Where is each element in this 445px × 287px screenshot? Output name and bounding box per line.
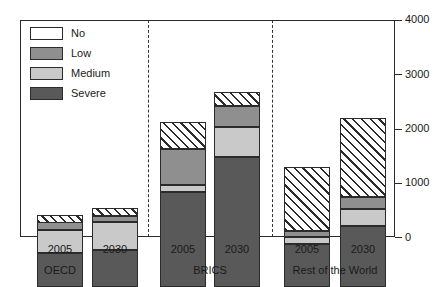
bar-row-2030[interactable] [340,118,386,287]
bar-segment-severe[interactable] [340,226,386,287]
bar-segment-no[interactable] [92,208,138,216]
legend-label-low: Low [71,47,91,60]
y-axis-label-0: 0 [405,232,411,243]
bar-segment-low[interactable] [340,197,386,210]
bar-segment-low[interactable] [92,216,138,222]
y-axis-label-4000: 4000 [405,14,429,25]
y-tick-4000 [395,20,402,21]
legend-swatch-low-icon [30,47,63,60]
legend-label-medium: Medium [71,67,110,80]
y-tick-0 [395,237,402,238]
y-tick-3000 [395,74,402,75]
bar-segment-no[interactable] [340,118,386,197]
bar-brics-2030[interactable] [214,92,260,287]
group-label-brics: BRICS [193,264,227,276]
legend-swatch-no-icon [30,27,63,40]
bar-segment-no[interactable] [284,167,330,231]
bar-segment-medium[interactable] [340,209,386,226]
group-separator-oecd-brics [148,20,149,237]
bar-segment-medium[interactable] [160,185,206,192]
bar-segment-no[interactable] [37,215,83,223]
bar-segment-no[interactable] [214,92,260,106]
group-separator-brics-row [272,20,273,237]
y-tick-1000 [395,183,402,184]
y-axis-label-2000: 2000 [405,123,429,134]
bar-segment-low[interactable] [284,231,330,236]
group-label-oecd: OECD [44,264,76,276]
legend-label-no: No [71,27,85,40]
bar-segment-low[interactable] [37,222,83,229]
bar-segment-severe[interactable] [92,250,138,287]
legend-swatch-medium-icon [30,67,63,80]
legend-swatch-severe-icon [30,87,63,100]
x-tick-label-row-2030: 2030 [333,243,393,255]
x-tick-label-oecd-2030: 2030 [85,243,145,255]
y-tick-2000 [395,129,402,130]
bar-brics-2005[interactable] [160,122,206,287]
group-label-rest-of-the-world: Rest of the World [293,264,378,276]
y-axis-label-1000: 1000 [405,177,429,188]
chart-container: 4000 3000 2000 1000 0 2005 2030 2005 203… [0,0,445,287]
legend-label-severe: Severe [71,87,106,100]
x-tick-label-brics-2030: 2030 [207,243,267,255]
x-tick-label-oecd-2005: 2005 [30,243,90,255]
x-tick-label-row-2005: 2005 [277,243,337,255]
bar-segment-low[interactable] [160,149,206,185]
bar-segment-no[interactable] [160,122,206,149]
x-tick-label-brics-2005: 2005 [153,243,213,255]
bar-segment-low[interactable] [214,106,260,127]
bar-segment-medium[interactable] [214,127,260,157]
y-axis-label-3000: 3000 [405,69,429,80]
